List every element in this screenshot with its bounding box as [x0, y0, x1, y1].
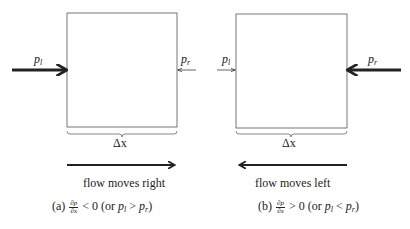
- caption-a: (a) ∂p∂x < 0 (or pl > pr): [52, 199, 152, 215]
- panel-a: [12, 13, 196, 165]
- partial-derivative: ∂p∂x: [69, 200, 78, 215]
- right-pressure-label: pr: [181, 52, 190, 67]
- width-label: Δx: [282, 136, 296, 151]
- flow-label: flow moves left: [255, 176, 330, 191]
- partial-derivative: ∂p∂x: [276, 200, 285, 215]
- panel-b: [217, 14, 401, 165]
- diagram-canvas: [0, 0, 410, 229]
- flow-label: flow moves right: [83, 176, 165, 191]
- right-pressure-label: pr: [368, 52, 377, 67]
- left-pressure-label: pl: [34, 52, 42, 67]
- width-label: Δx: [113, 136, 127, 151]
- left-pressure-label: pl: [222, 52, 230, 67]
- caption-b: (b) ∂p∂x > 0 (or pl < pr): [258, 199, 359, 215]
- control-volume-box: [67, 13, 177, 127]
- control-volume-box: [236, 14, 347, 128]
